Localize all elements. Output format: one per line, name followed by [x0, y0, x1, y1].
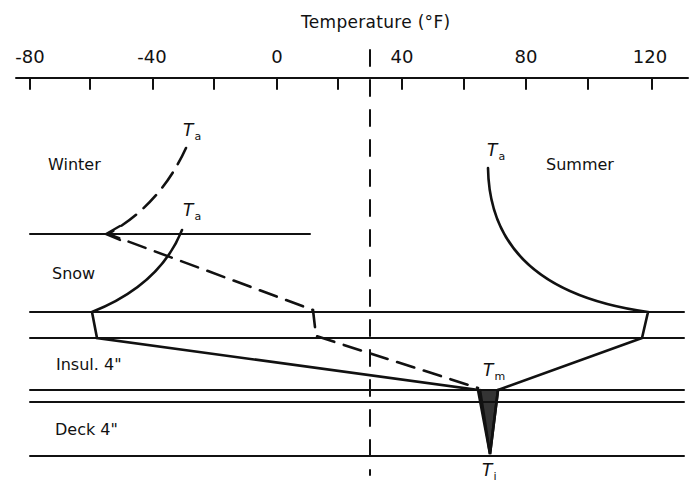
- winter-label: Winter: [48, 155, 101, 174]
- tick-label-80: 80: [515, 46, 538, 67]
- tm-membrane-label: Tm: [483, 360, 505, 383]
- summer-label: Summer: [546, 155, 614, 174]
- tick-label-0: 0: [271, 46, 282, 67]
- winter-snow-profile: [92, 230, 498, 454]
- ti-interior-label: Ti: [482, 460, 496, 483]
- snow-layer-label: Snow: [52, 264, 95, 283]
- tick-label-neg40: -40: [137, 46, 166, 67]
- tick-label-neg80: -80: [15, 46, 44, 67]
- tick-label-40: 40: [391, 46, 414, 67]
- axis-ticks: [30, 78, 652, 89]
- insulation-layer-label: Insul. 4": [56, 355, 122, 374]
- ta-winter-snow-label: Ta: [183, 200, 201, 223]
- deck-layer-label: Deck 4": [55, 420, 118, 439]
- x-axis-title: Temperature (°F): [301, 12, 450, 32]
- summer-profile: [488, 168, 648, 390]
- winter-bare-profile: [108, 148, 478, 388]
- ta-summer-label: Ta: [487, 140, 505, 163]
- ta-winter-air-label: Ta: [183, 120, 201, 143]
- layer-boundaries: [30, 234, 684, 456]
- tick-label-120: 120: [633, 46, 667, 67]
